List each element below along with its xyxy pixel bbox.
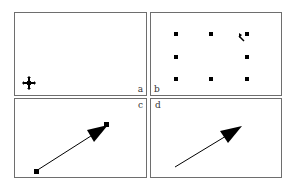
panel-a: a xyxy=(14,12,147,96)
endpoint-handle-end xyxy=(104,122,109,127)
panel-c: c xyxy=(14,98,147,178)
panel-d: d xyxy=(150,98,282,178)
handle-bottom-right xyxy=(245,77,249,81)
move-cursor-icon xyxy=(15,13,148,97)
handle-top-left xyxy=(174,32,178,36)
endpoint-handle-start xyxy=(34,169,39,174)
handle-top-middle xyxy=(209,32,213,36)
selected-arrow xyxy=(15,99,148,179)
handle-middle-left xyxy=(174,55,178,59)
resize-cursor-icon xyxy=(239,33,244,41)
arrowhead-icon xyxy=(220,126,242,143)
panel-b: b xyxy=(150,12,282,96)
handle-top-right xyxy=(245,32,249,36)
unselected-arrow xyxy=(151,99,283,179)
arrowhead-icon xyxy=(87,125,108,142)
selection-handles xyxy=(151,13,283,97)
handle-bottom-middle xyxy=(209,77,213,81)
handle-bottom-left xyxy=(174,77,178,81)
handle-middle-right xyxy=(245,55,249,59)
